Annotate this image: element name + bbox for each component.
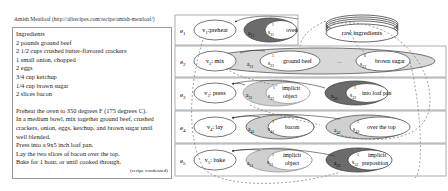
svg-text:1: 1 bbox=[272, 22, 274, 27]
svg-text:object: object bbox=[283, 93, 298, 99]
svg-text:1: 1 bbox=[354, 85, 356, 90]
svg-text:1: 1 bbox=[273, 85, 275, 90]
svg-text:bacon: bacon bbox=[285, 124, 299, 130]
svg-text:1: 1 bbox=[272, 119, 274, 124]
svg-text:over the top: over the top bbox=[367, 124, 396, 130]
svg-text:e2: e2 bbox=[180, 58, 186, 67]
svg-text:1: 1 bbox=[357, 119, 359, 124]
svg-text:oven: oven bbox=[286, 27, 298, 33]
svg-text:e5: e5 bbox=[180, 157, 186, 166]
svg-text:raw ingredients: raw ingredients bbox=[342, 29, 383, 36]
event-label-e1: e1 bbox=[180, 27, 186, 36]
raw-ingredients-node: raw ingredients bbox=[326, 15, 398, 42]
svg-text:brown sugar: brown sugar bbox=[375, 58, 405, 64]
svg-text:implicit: implicit bbox=[368, 152, 386, 158]
svg-text:1: 1 bbox=[357, 152, 359, 157]
svg-text:ground beef: ground beef bbox=[283, 58, 312, 64]
svg-text:e3: e3 bbox=[180, 91, 186, 100]
svg-text:1: 1 bbox=[272, 152, 274, 157]
svg-text:implicit: implicit bbox=[282, 85, 300, 91]
svg-text:1: 1 bbox=[272, 53, 274, 58]
svg-text:into loaf pan: into loaf pan bbox=[362, 90, 391, 96]
action-graph: raw ingredients e1 v1:preheat a11 s11 1 … bbox=[0, 0, 448, 191]
svg-text:e4: e4 bbox=[180, 124, 186, 133]
svg-text:6: 6 bbox=[364, 53, 366, 58]
svg-text:object: object bbox=[285, 160, 300, 166]
svg-text:implicit: implicit bbox=[283, 152, 301, 158]
svg-text:preposition: preposition bbox=[362, 160, 388, 166]
svg-text:...: ... bbox=[337, 58, 342, 64]
